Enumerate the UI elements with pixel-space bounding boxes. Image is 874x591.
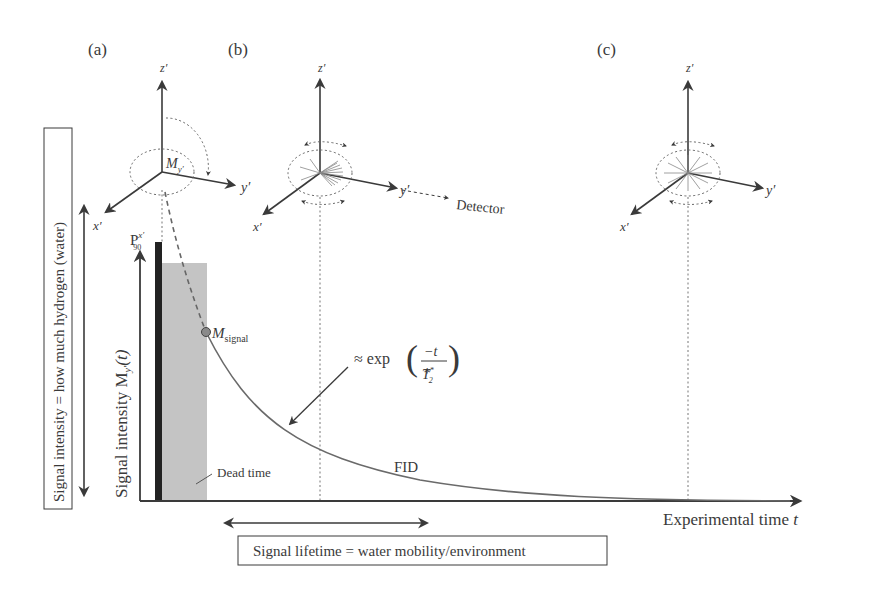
magnetization-vector-label: My′: [165, 156, 185, 174]
fid-curve: [206, 332, 790, 501]
panel-a-z-label: z′: [159, 61, 168, 75]
panel-a-label: (a): [88, 40, 107, 59]
panel-b-x-label: x′: [252, 219, 262, 234]
panel-c-y-label: y′: [764, 183, 776, 198]
bottom-annotation-text: Signal lifetime = water mobility/environ…: [253, 543, 526, 559]
y-axis-label: Signal intensity My′(t): [112, 349, 133, 498]
fid-diagram: (a) (b) (c) z′ y′ x′ My′: [0, 0, 874, 591]
pulse-bar: [155, 242, 162, 501]
signal-point-label: Msignal: [211, 325, 249, 344]
panel-b-y-label: y′: [398, 183, 410, 198]
svg-text:−t: −t: [424, 344, 438, 359]
signal-point: [202, 328, 211, 337]
panel-c-label: (c): [597, 40, 616, 59]
dead-time-label: Dead time: [217, 465, 271, 480]
svg-text:(: (: [406, 338, 418, 378]
decay-formula: ≈ exp ( −t * T*2 ): [354, 338, 460, 385]
svg-text:T*2: T*2: [422, 366, 434, 385]
pulse-label: Px′90: [130, 230, 145, 252]
panel-b-label: (b): [228, 40, 248, 59]
x-axis-label: Experimental time t: [663, 510, 799, 529]
left-annotation-text: Signal intensity = how much hydrogen (wa…: [51, 222, 68, 502]
panel-c-x-label: x′: [619, 219, 629, 234]
panel-a-y-label: y′: [239, 180, 251, 195]
panel-b-axes: z′ y′ x′ Detector: [252, 61, 506, 234]
svg-text:): ): [448, 338, 460, 378]
dead-time-region: [162, 263, 207, 501]
detector-label: Detector: [456, 197, 506, 217]
panel-a-x-label: x′: [92, 218, 102, 233]
panel-c-axes: z′ y′ x′: [619, 61, 776, 234]
svg-text:≈ exp: ≈ exp: [354, 350, 390, 368]
fid-label: FID: [394, 459, 418, 475]
panel-a-axes: z′ y′ x′ My′: [92, 61, 251, 233]
panel-c-z-label: z′: [685, 61, 694, 75]
formula-arrow: [290, 367, 348, 424]
panel-b-z-label: z′: [317, 61, 326, 75]
